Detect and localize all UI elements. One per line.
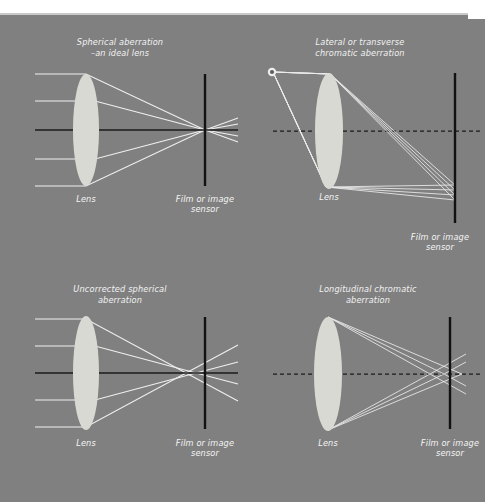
figure-background xyxy=(0,14,485,502)
lens-label: Lens xyxy=(318,438,338,448)
film-label-line2: sensor xyxy=(191,204,220,214)
panel-title-line1: Uncorrected spherical xyxy=(73,284,167,294)
lens-body xyxy=(73,316,99,430)
lens-label: Lens xyxy=(76,194,96,204)
film-label-line2: sensor xyxy=(436,448,465,458)
film-label-line2: sensor xyxy=(426,242,455,252)
panel-title-line2: aberration xyxy=(98,295,142,305)
panel-title-line2: chromatic aberration xyxy=(315,48,404,58)
lens-label: Lens xyxy=(76,438,96,448)
lens-body xyxy=(314,317,342,431)
top-right-notch xyxy=(468,14,485,19)
point-source-center-icon xyxy=(270,70,274,74)
diagram-canvas: Spherical aberration –an ideal lens xyxy=(0,0,485,502)
panel-title-line1: Longitudinal chromatic xyxy=(319,284,417,294)
optics-aberration-figure: Spherical aberration –an ideal lens xyxy=(0,0,485,502)
lens-body xyxy=(73,74,99,186)
film-label-line1: Film or image xyxy=(411,232,469,242)
top-edge-shadow xyxy=(0,13,468,15)
film-label-line1: Film or image xyxy=(421,438,479,448)
lens-body xyxy=(315,73,343,189)
lens-label: Lens xyxy=(319,192,339,202)
panel-title-line1: Lateral or transverse xyxy=(316,37,405,47)
film-label-line2: sensor xyxy=(191,448,220,458)
film-label-line1: Film or image xyxy=(176,438,234,448)
panel-title-line2: aberration xyxy=(346,295,390,305)
panel-title-line2: –an ideal lens xyxy=(91,48,150,58)
panel-title-line1: Spherical aberration xyxy=(77,37,163,47)
film-label-line1: Film or image xyxy=(176,194,234,204)
